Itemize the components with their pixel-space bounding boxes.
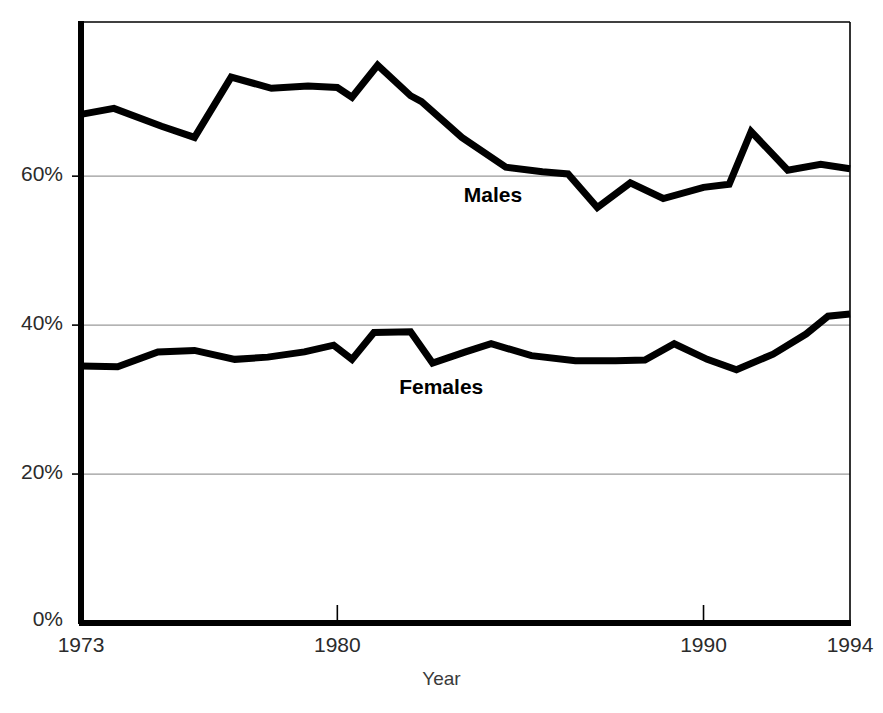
series-label-females: Females bbox=[399, 375, 483, 399]
plot-frame bbox=[79, 21, 851, 624]
y-tick-label-60: 60% bbox=[0, 162, 63, 186]
gridlines bbox=[81, 176, 850, 474]
x-tick-label-1973: 1973 bbox=[21, 633, 141, 657]
x-tick-label-1990: 1990 bbox=[644, 633, 764, 657]
plot-area bbox=[0, 0, 883, 713]
data-series-group bbox=[81, 65, 850, 370]
series-label-males: Males bbox=[464, 183, 522, 207]
y-tick-label-20: 20% bbox=[0, 460, 63, 484]
x-tick-label-1980: 1980 bbox=[277, 633, 397, 657]
x-axis-title: Year bbox=[0, 668, 883, 690]
x-tick-label-1994: 1994 bbox=[790, 633, 883, 657]
y-tick-label-40: 40% bbox=[0, 311, 63, 335]
x-axis-ticks bbox=[72, 176, 704, 620]
line-chart: 60% 40% 20% 0% 1973 1980 1990 1994 Males… bbox=[0, 0, 883, 713]
y-tick-label-0: 0% bbox=[0, 607, 63, 631]
